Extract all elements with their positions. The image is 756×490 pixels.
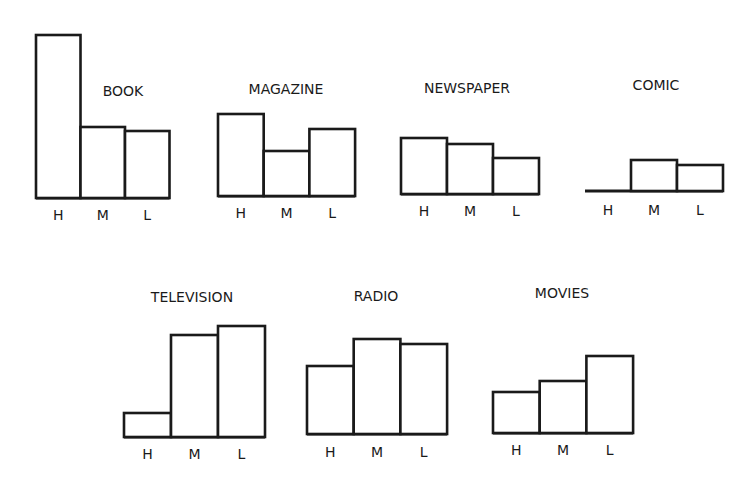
category-label: M — [557, 442, 569, 458]
panel-title: MAGAZINE — [249, 81, 324, 97]
panel-magazine: MAGAZINEHML — [218, 81, 355, 221]
category-label: L — [420, 444, 428, 460]
bar-m — [540, 381, 587, 433]
panel-title: NEWSPAPER — [424, 80, 510, 96]
panel-movies: MOVIESHML — [493, 285, 633, 458]
bar-h — [218, 114, 264, 196]
panel-title: TELEVISION — [150, 289, 233, 305]
bar-l — [218, 326, 265, 437]
category-label: L — [238, 446, 246, 462]
bar-l — [493, 158, 539, 194]
bar-m — [81, 127, 126, 198]
category-label: H — [419, 203, 430, 219]
panel-television: TELEVISIONHML — [124, 289, 265, 462]
bar-m — [631, 160, 677, 191]
category-label: H — [325, 444, 336, 460]
bar-h — [124, 413, 171, 437]
chart-canvas: BOOKHMLMAGAZINEHMLNEWSPAPERHMLCOMICHMLTE… — [0, 0, 756, 490]
category-label: M — [188, 446, 200, 462]
bar-l — [586, 356, 633, 433]
bar-m — [354, 339, 401, 434]
bar-h — [36, 35, 81, 198]
panel-title: BOOK — [103, 83, 144, 99]
category-label: L — [512, 203, 520, 219]
panel-title: RADIO — [354, 288, 399, 304]
bar-h — [401, 138, 447, 194]
category-label: H — [236, 205, 247, 221]
category-label: L — [328, 205, 336, 221]
media-usage-small-multiples-chart: BOOKHMLMAGAZINEHMLNEWSPAPERHMLCOMICHMLTE… — [0, 0, 756, 490]
bar-l — [677, 165, 723, 191]
category-label: M — [464, 203, 476, 219]
bar-l — [309, 129, 355, 196]
panel-title: MOVIES — [535, 285, 589, 301]
category-label: H — [603, 202, 614, 218]
category-label: M — [648, 202, 660, 218]
panel-newspaper: NEWSPAPERHML — [401, 80, 539, 219]
panel-comic: COMICHML — [585, 77, 723, 218]
bar-h — [493, 392, 540, 433]
category-label: L — [606, 442, 614, 458]
category-label: L — [143, 207, 151, 223]
category-label: H — [142, 446, 153, 462]
bar-l — [400, 344, 447, 434]
category-label: H — [511, 442, 522, 458]
panel-radio: RADIOHML — [307, 288, 447, 460]
bar-l — [125, 131, 170, 198]
bar-m — [264, 151, 310, 196]
panel-title: COMIC — [633, 77, 680, 93]
category-label: M — [281, 205, 293, 221]
bar-h — [307, 366, 354, 434]
panel-book: BOOKHML — [36, 35, 170, 223]
category-label: H — [53, 207, 64, 223]
category-label: M — [97, 207, 109, 223]
category-label: L — [696, 202, 704, 218]
category-label: M — [371, 444, 383, 460]
bar-m — [447, 144, 493, 194]
bar-m — [171, 335, 218, 437]
